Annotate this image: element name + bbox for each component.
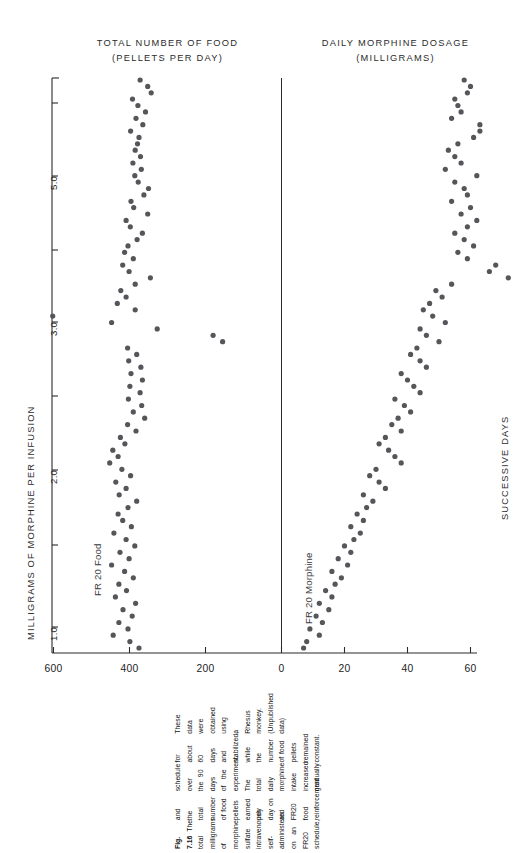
data-point [459, 160, 464, 165]
data-point [430, 314, 435, 319]
data-point [418, 358, 423, 363]
series-label-food: FR 20 Food [92, 543, 103, 596]
data-point [304, 639, 309, 644]
data-point [119, 467, 124, 472]
data-point [126, 358, 131, 363]
x-tick-morphine-40: 40 [388, 663, 428, 674]
data-point [465, 192, 470, 197]
data-point [493, 263, 498, 268]
data-point [474, 173, 479, 178]
data-point [140, 377, 145, 382]
data-point [408, 352, 413, 357]
data-point [487, 269, 492, 274]
data-point [446, 148, 451, 153]
data-point [389, 422, 394, 427]
x-tick-food-400: 400 [110, 663, 150, 674]
series-label-morphine: FR 20 Morphine [303, 552, 314, 624]
data-point [405, 377, 410, 382]
figure-caption-block: Fig. 7.16 The total milligrams of morphi… [172, 683, 332, 849]
data-point [402, 403, 407, 408]
data-point [211, 333, 216, 338]
data-point [392, 397, 397, 402]
data-point [396, 416, 401, 421]
data-point [443, 320, 448, 325]
data-point [138, 390, 143, 395]
data-point [408, 409, 413, 414]
data-point [131, 409, 136, 414]
y-tick-infusion-2.0: 2.0 [48, 470, 59, 484]
data-point [128, 129, 133, 134]
axis-label-morphine-per-infusion: MILLIGRAMS OF MORPHINE PER INFUSION [26, 406, 36, 640]
data-point [436, 339, 441, 344]
data-point [471, 243, 476, 248]
data-point [377, 480, 382, 485]
data-point [424, 333, 429, 338]
data-point [120, 263, 125, 268]
data-point [132, 173, 137, 178]
data-point [135, 103, 140, 108]
data-point [117, 492, 122, 497]
data-point [133, 116, 138, 121]
data-point [443, 167, 448, 172]
data-point [342, 543, 347, 548]
data-point [139, 167, 144, 172]
data-point [345, 562, 350, 567]
data-point [149, 90, 154, 95]
data-point [452, 231, 457, 236]
data-point [136, 135, 141, 140]
data-point [111, 531, 116, 536]
data-point [140, 122, 145, 127]
data-point [113, 594, 118, 599]
data-point [506, 275, 511, 280]
data-point [145, 84, 150, 89]
data-point [449, 116, 454, 121]
data-point [361, 492, 366, 497]
data-point [107, 460, 112, 465]
data-point [424, 365, 429, 370]
data-point [399, 371, 404, 376]
data-point [142, 416, 147, 421]
data-point [471, 135, 476, 140]
data-point [373, 467, 378, 472]
data-point [113, 480, 118, 485]
data-point [128, 371, 133, 376]
data-point [307, 626, 312, 631]
data-point [122, 250, 127, 255]
data-point [146, 186, 151, 191]
data-point [336, 556, 341, 561]
data-point [468, 205, 473, 210]
data-point [127, 556, 132, 561]
data-point [122, 441, 127, 446]
data-point [134, 499, 139, 504]
data-point [120, 518, 125, 523]
data-point [459, 211, 464, 216]
data-point [132, 543, 137, 548]
data-point [124, 486, 129, 491]
data-point [329, 594, 334, 599]
data-point [109, 320, 114, 325]
data-point [116, 620, 121, 625]
data-point [131, 205, 136, 210]
data-point [124, 294, 129, 299]
data-point [138, 365, 143, 370]
data-point [361, 518, 366, 523]
data-point [459, 109, 464, 114]
data-point [116, 582, 121, 587]
data-point [383, 435, 388, 440]
data-point [433, 288, 438, 293]
data-point [418, 326, 423, 331]
data-point [130, 160, 135, 165]
figure-caption-body: The total milligrams of morphine sulfate… [174, 693, 320, 849]
data-point [118, 435, 123, 440]
data-point [109, 562, 114, 567]
data-point [130, 614, 135, 619]
data-point [135, 141, 140, 146]
data-point [320, 620, 325, 625]
data-point [440, 294, 445, 299]
data-point [348, 550, 353, 555]
data-point [301, 645, 306, 650]
y-tick-infusion-1.0: 1.0 [48, 627, 59, 641]
data-point [317, 601, 322, 606]
axis-label-successive-days: SUCCESSIVE DAYS [500, 416, 510, 520]
data-point [50, 314, 55, 319]
